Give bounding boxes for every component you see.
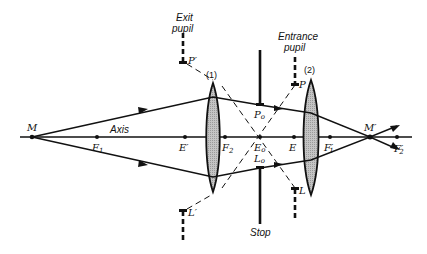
stop-label: Stop (250, 227, 271, 238)
point-F2-prime (395, 135, 399, 139)
label-E: E (288, 142, 297, 153)
point-F1-prime (328, 135, 332, 139)
exit-pupil-upper-tip (179, 61, 187, 64)
point-F1 (95, 135, 99, 139)
entrance-pupil-label-1: Entrance (278, 31, 318, 42)
axis-label: Axis (109, 124, 129, 135)
label-F2-prime: F′2 (393, 143, 404, 156)
point-M (30, 135, 35, 140)
label-E-prime: E′ (178, 142, 189, 153)
label-F1: F1 (91, 142, 103, 155)
label-L: L (298, 185, 306, 196)
point-E (292, 135, 296, 139)
arrow-emerge-upper-icon (390, 125, 400, 132)
exit-pupil-label-2: pupil (171, 23, 194, 34)
label-L0: Lo (253, 153, 265, 165)
label-F1-prime: F′1 (323, 142, 334, 155)
entrance-pupil-label-2: pupil (283, 42, 306, 53)
point-E-prime (183, 135, 187, 139)
lens-2-label: (2) (304, 65, 315, 75)
lens-2 (304, 80, 319, 195)
label-M-prime: M′ (363, 122, 377, 133)
label-P-prime: P′ (187, 55, 198, 66)
lens-1-label: (1) (206, 70, 217, 80)
label-M: M (26, 122, 38, 133)
label-P0: Po (253, 109, 265, 121)
label-F2: F2 (221, 142, 234, 155)
label-P: P (298, 79, 306, 90)
point-M-prime (368, 135, 373, 140)
exit-pupil-lower-tip (179, 209, 187, 212)
point-E0 (258, 135, 262, 139)
label-L-prime: L′ (187, 207, 198, 218)
optics-diagram: Axis (1) (2) Stop Entrance pupil Exit pu… (0, 0, 427, 254)
point-F2 (223, 135, 227, 139)
exit-pupil-label-1: Exit (176, 12, 194, 23)
